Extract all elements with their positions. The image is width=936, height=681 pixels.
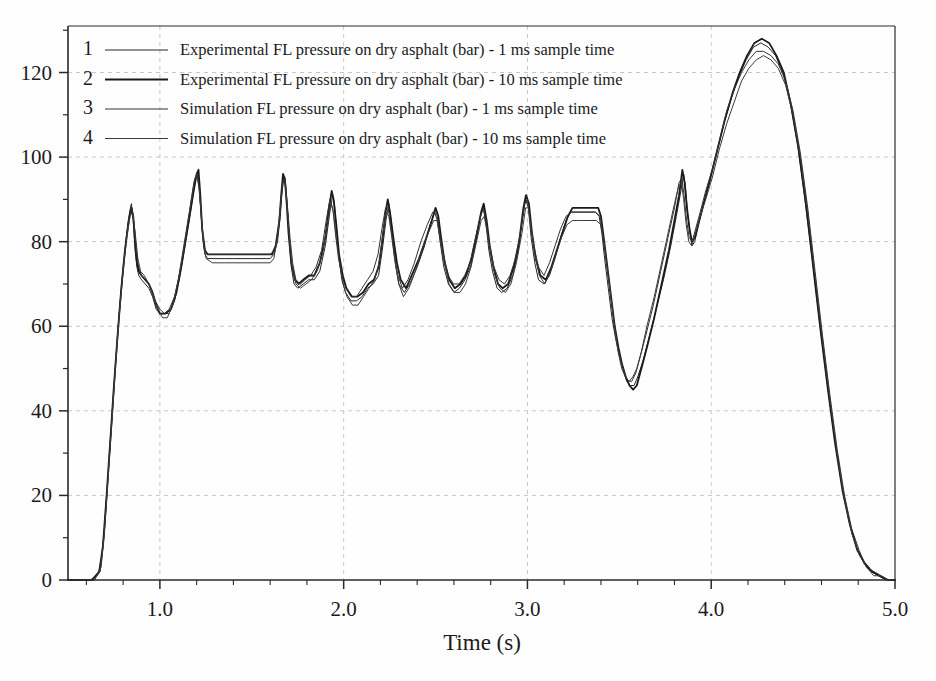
legend-index-4: 4: [83, 126, 93, 148]
legend-label-1: Experimental FL pressure on dry asphalt …: [180, 40, 614, 59]
y-tick-label: 80: [31, 230, 52, 254]
x-axis-title: Time (s): [443, 630, 521, 655]
legend-index-1: 1: [83, 37, 93, 59]
x-tick-label: 3.0: [514, 597, 540, 621]
legend-index-2: 2: [83, 67, 93, 89]
y-tick-label: 0: [42, 568, 53, 592]
legend-index-3: 3: [83, 96, 93, 118]
legend-label-3: Simulation FL pressure on dry asphalt (b…: [180, 99, 598, 118]
y-tick-label: 100: [21, 145, 53, 169]
legend-label-4: Simulation FL pressure on dry asphalt (b…: [180, 129, 606, 148]
y-tick-label: 120: [21, 61, 53, 85]
y-tick-label: 20: [31, 483, 52, 507]
x-tick-label: 4.0: [698, 597, 724, 621]
legend-label-2: Experimental FL pressure on dry asphalt …: [180, 70, 622, 89]
y-tick-label: 60: [31, 314, 52, 338]
x-tick-label: 5.0: [882, 597, 908, 621]
pressure-time-chart: 1.02.03.04.05.0 020406080100120 1Experim…: [0, 0, 936, 681]
x-tick-label: 1.0: [147, 597, 173, 621]
y-tick-label: 40: [31, 399, 52, 423]
x-tick-label: 2.0: [331, 597, 357, 621]
chart-figure: 1.02.03.04.05.0 020406080100120 1Experim…: [0, 0, 936, 681]
